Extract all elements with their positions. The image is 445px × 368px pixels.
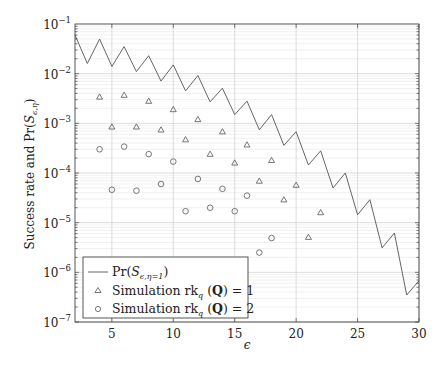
x-tick-label: 25 [350,327,365,341]
x-tick-label: 5 [108,327,116,341]
triangle-marker [146,98,152,103]
triangle-marker [305,234,311,239]
y-tick-label: 10−6 [43,263,71,280]
chart: 51015202530 10−110−210−310−410−510−610−7… [0,0,445,368]
circle-marker [183,208,189,214]
x-tick-label: 15 [227,327,242,341]
legend-label-sim2: Simulation rkq (Q) = 2 [112,301,254,318]
triangle-marker [97,94,103,99]
legend: Pr(Sϵ,η=1) Simulation rkq (Q) = 1 Simula… [83,257,254,318]
triangle-marker [244,142,250,147]
y-tick-label: 10−2 [43,65,71,82]
y-tick-labels: 10−110−210−310−410−510−610−7 [43,15,71,330]
triangle-marker [183,137,189,142]
y-tick-label: 10−7 [43,313,71,330]
triangle-marker [121,92,127,97]
x-axis-label: ϵ [244,338,251,352]
x-tick-label: 30 [411,327,426,341]
circle-marker [121,144,127,150]
y-tick-label: 10−4 [43,164,71,181]
circle-marker [269,235,275,241]
triangle-marker [207,151,213,156]
circle-marker [146,151,152,157]
triangle-marker [195,116,201,121]
triangle-marker [318,210,324,215]
circle-marker [244,193,250,199]
circle-marker [220,186,226,192]
x-tick-label: 10 [166,327,181,341]
y-tick-label: 10−3 [43,114,71,131]
triangle-marker [281,197,287,202]
y-tick-label: 10−1 [43,15,71,32]
y-tick-label: 10−5 [43,214,71,231]
x-tick-label: 20 [289,327,304,341]
x-tick-labels: 51015202530 [108,327,427,341]
y-axis-label: Success rate and Pr(Sϵ,η) [23,99,39,250]
circle-marker [256,250,262,256]
legend-label-sim1: Simulation rkq (Q) = 1 [112,283,254,300]
